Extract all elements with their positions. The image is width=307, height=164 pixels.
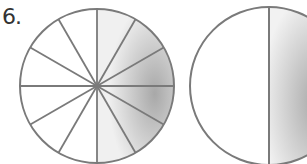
circle-twelfths (20, 9, 174, 163)
circle-halves (190, 7, 307, 164)
fraction-figures (0, 0, 307, 164)
